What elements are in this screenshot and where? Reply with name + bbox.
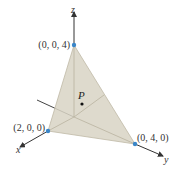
x-intercept-label: (2, 0, 0) [13,122,45,134]
y-intercept-label: (0, 4, 0) [137,132,169,144]
z-intercept-dot [72,43,76,47]
plane-diagram: P z x y (0, 0, 4) (2, 0, 0) (0, 4, 0) [0,0,185,169]
z-axis-label: z [70,4,75,15]
y-axis [135,144,163,156]
plane-triangle [48,45,135,144]
x-axis-label: x [15,144,21,155]
point-p-label: P [77,89,85,101]
x-intercept-dot [46,129,50,133]
z-intercept-label: (0, 0, 4) [38,39,70,51]
point-p-dot [80,102,83,105]
diagram-canvas: P z x y (0, 0, 4) (2, 0, 0) (0, 4, 0) [0,0,185,169]
x-axis [20,131,48,147]
y-axis-label: y [163,154,169,165]
